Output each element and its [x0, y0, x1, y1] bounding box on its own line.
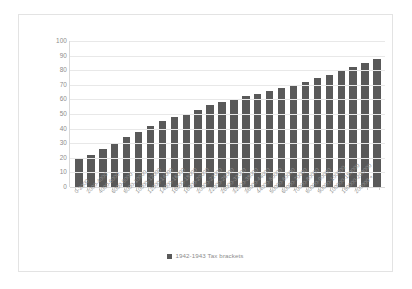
y-axis-tick-label: 10 — [45, 169, 67, 175]
legend-label: 1942-1943 Tax brackets — [175, 253, 243, 259]
gridline — [70, 129, 385, 130]
y-axis-tick-label: 80 — [45, 67, 67, 73]
y-axis-tick-label: 30 — [45, 140, 67, 146]
x-axis-tick — [367, 187, 368, 190]
y-axis-tick-label: 0 — [45, 184, 67, 190]
y-axis: 0102030405060708090100 — [45, 41, 67, 187]
y-axis-tick-label: 60 — [45, 96, 67, 102]
y-axis-tick-label: 70 — [45, 82, 67, 88]
chart-container: 0102030405060708090100 0-20002000-400040… — [18, 14, 393, 272]
gridline — [70, 70, 385, 71]
legend: 1942-1943 Tax brackets — [19, 253, 392, 259]
gridline — [70, 85, 385, 86]
gridline — [70, 158, 385, 159]
y-axis-tick-label: 90 — [45, 52, 67, 58]
y-axis-tick-label: 50 — [45, 111, 67, 117]
gridline — [70, 99, 385, 100]
gridline — [70, 114, 385, 115]
legend-swatch-icon — [167, 254, 172, 259]
x-axis-labels: 0-20002000-40004000-60006000-80008000-10… — [69, 191, 385, 251]
x-axis-tick — [379, 187, 380, 190]
y-axis-tick-label: 20 — [45, 155, 67, 161]
y-axis-tick-label: 40 — [45, 125, 67, 131]
bar — [373, 59, 380, 187]
gridline — [70, 41, 385, 42]
gridline — [70, 56, 385, 57]
y-axis-tick-label: 100 — [45, 38, 67, 44]
grid-area — [69, 41, 385, 187]
gridline — [70, 143, 385, 144]
